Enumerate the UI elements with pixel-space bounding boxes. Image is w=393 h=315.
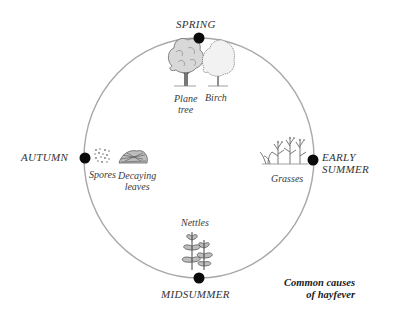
decaying-leaves-icon bbox=[119, 151, 147, 163]
season-label-early-summer-line2: SUMMER bbox=[322, 163, 369, 175]
grasses-icon bbox=[260, 137, 308, 164]
season-label-early-summer-line1: EARLY bbox=[322, 151, 369, 163]
season-label-spring: SPRING bbox=[176, 19, 216, 30]
spring-marker-dot bbox=[194, 33, 205, 44]
cause-label-birch: Birch bbox=[205, 93, 227, 103]
cause-label-decaying-leaves-line2: leaves bbox=[118, 181, 156, 192]
early-summer-marker-dot bbox=[308, 155, 319, 166]
cause-label-plane-tree-line2: tree bbox=[174, 104, 197, 115]
cause-label-grasses: Grasses bbox=[271, 174, 303, 184]
diagram-caption-line2: of hayfever bbox=[272, 289, 355, 301]
season-label-midsummer: MIDSUMMER bbox=[161, 289, 230, 300]
autumn-marker-dot bbox=[80, 153, 91, 164]
season-label-early-summer: EARLY SUMMER bbox=[322, 151, 369, 175]
season-cycle-ring bbox=[84, 38, 314, 278]
cause-label-nettles: Nettles bbox=[181, 218, 209, 228]
spores-icon bbox=[94, 148, 110, 163]
cause-label-plane-tree: Plane tree bbox=[174, 93, 197, 115]
hayfever-season-diagram: SPRING EARLY SUMMER MIDSUMMER AUTUMN Pla… bbox=[0, 0, 393, 315]
diagram-caption-line1: Common causes bbox=[272, 277, 355, 289]
cause-label-decaying-leaves: Decaying leaves bbox=[118, 170, 156, 192]
plane-tree-icon bbox=[168, 38, 203, 86]
nettles-icon bbox=[182, 232, 212, 270]
cause-label-spores: Spores bbox=[89, 170, 116, 180]
diagram-caption: Common causes of hayfever bbox=[272, 277, 355, 301]
birch-tree-icon bbox=[202, 40, 234, 86]
season-label-autumn: AUTUMN bbox=[21, 152, 68, 163]
midsummer-marker-dot bbox=[194, 273, 205, 284]
cause-label-decaying-leaves-line1: Decaying bbox=[118, 170, 156, 181]
cause-label-plane-tree-line1: Plane bbox=[174, 93, 197, 104]
